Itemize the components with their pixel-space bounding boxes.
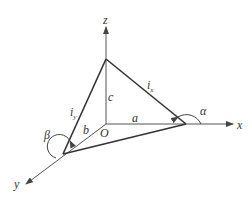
y-axis-label: y (14, 178, 19, 190)
beta-label: β (44, 129, 50, 141)
x-axis-label: x (237, 119, 242, 131)
z-axis-label: z (103, 14, 108, 26)
alpha-label: α (200, 105, 206, 117)
intercept-a-label: a (132, 112, 138, 124)
edge-ix-label: ix (147, 79, 153, 94)
edge-base (63, 124, 186, 154)
intercept-plane-diagram: z x y O a b c ix iy α β (0, 0, 252, 197)
edge-iy-label: iy (70, 106, 76, 121)
intercept-c-label: c (108, 91, 113, 103)
diagram-lines (0, 0, 252, 197)
origin-label: O (100, 127, 109, 139)
intercept-b-label: b (83, 124, 89, 136)
edge-ix (106, 59, 186, 124)
